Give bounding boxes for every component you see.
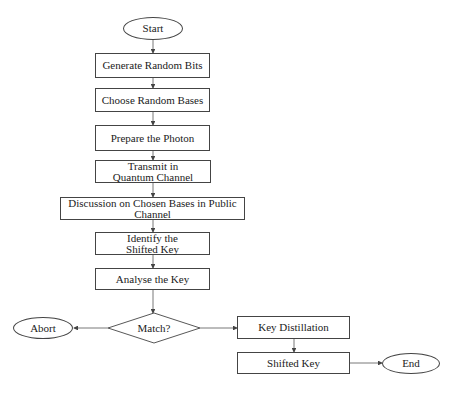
discussion-public-channel-step: Discussion on Chosen Bases in Public Cha… — [60, 197, 245, 220]
end-terminal: End — [382, 353, 440, 374]
generate-label: Generate Random Bits — [102, 60, 202, 71]
start-label: Start — [143, 23, 164, 34]
prepare-label: Prepare the Photon — [111, 133, 195, 144]
key-distillation-step: Key Distillation — [237, 316, 350, 339]
analyse-key-step: Analyse the Key — [95, 268, 210, 290]
identify-shifted-key-step: Identify the Shifted Key — [95, 232, 210, 255]
transmit-quantum-channel-step: Transmit in Quantum Channel — [95, 160, 211, 183]
shifted-key-step: Shifted Key — [237, 352, 350, 374]
discussion-label: Discussion on Chosen Bases in Public Cha… — [63, 198, 242, 220]
transmit-label: Transmit in Quantum Channel — [106, 161, 200, 183]
start-terminal: Start — [123, 17, 183, 40]
distillation-label: Key Distillation — [258, 322, 329, 333]
choose-random-bases-step: Choose Random Bases — [95, 88, 210, 112]
generate-random-bits-step: Generate Random Bits — [95, 53, 210, 78]
end-label: End — [402, 358, 420, 369]
identify-label: Identify the Shifted Key — [110, 233, 195, 255]
prepare-photon-step: Prepare the Photon — [95, 125, 210, 151]
match-label: Match? — [138, 322, 171, 334]
abort-terminal: Abort — [13, 317, 73, 339]
abort-label: Abort — [30, 323, 56, 334]
match-decision-label: Match? — [108, 313, 200, 343]
shifted-label: Shifted Key — [267, 358, 320, 369]
analyse-label: Analyse the Key — [116, 274, 189, 285]
choose-label: Choose Random Bases — [102, 95, 203, 106]
